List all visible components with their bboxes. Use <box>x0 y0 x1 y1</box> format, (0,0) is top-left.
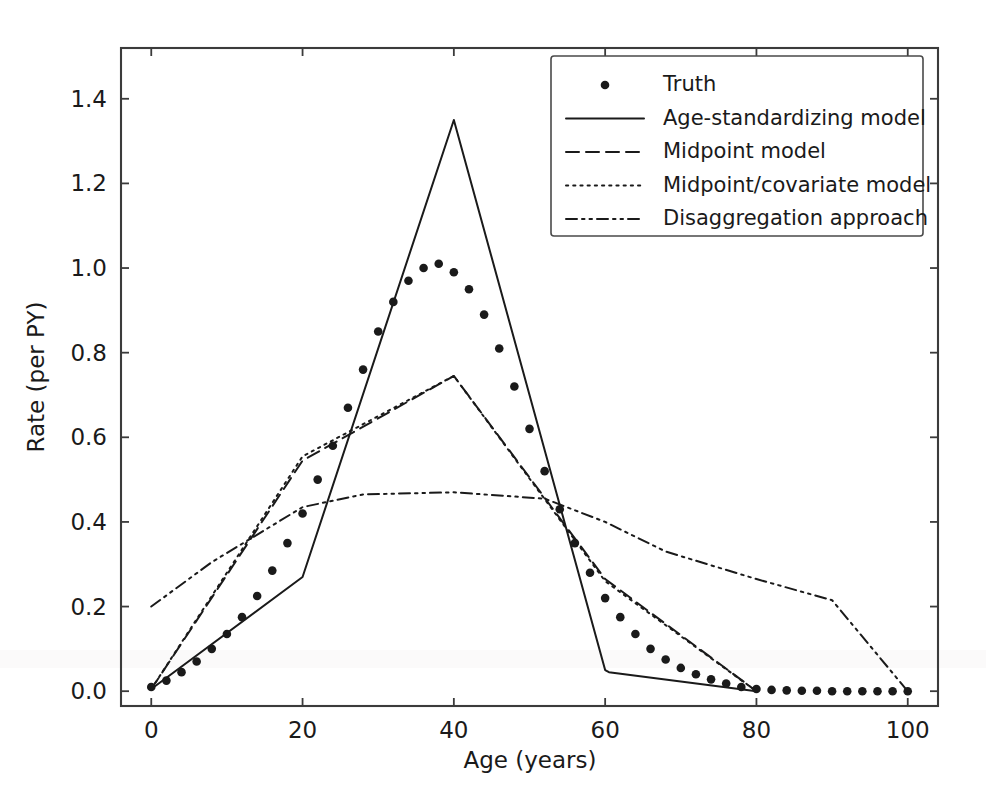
data-point <box>601 594 610 603</box>
data-point <box>676 664 685 673</box>
data-point <box>495 344 504 353</box>
chart-figure: 0.00.20.40.60.81.01.21.4 020406080100 Ag… <box>0 0 986 804</box>
data-point <box>510 382 519 391</box>
data-point <box>283 539 292 548</box>
data-point <box>359 365 368 374</box>
data-point <box>646 645 655 654</box>
data-point <box>661 655 670 664</box>
data-point <box>631 630 640 639</box>
data-point <box>540 467 549 476</box>
x-tick-label: 40 <box>439 717 468 743</box>
data-point <box>419 264 428 273</box>
y-tick-label: 1.2 <box>70 170 107 196</box>
y-tick-label: 0.8 <box>70 340 107 366</box>
data-point <box>298 509 307 518</box>
data-point <box>313 475 322 484</box>
data-point <box>767 686 776 695</box>
legend-marker-truth <box>601 81 610 90</box>
x-tick-label: 0 <box>144 717 159 743</box>
data-point <box>480 310 489 319</box>
legend-label: Age-standardizing model <box>663 106 926 130</box>
data-point <box>873 687 882 696</box>
chart-canvas: 0.00.20.40.60.81.01.21.4 020406080100 Ag… <box>0 0 986 804</box>
legend-label: Midpoint/covariate model <box>663 173 931 197</box>
x-tick-label: 20 <box>288 717 317 743</box>
data-point <box>888 687 897 696</box>
x-tick-label: 60 <box>591 717 620 743</box>
scan-artifact-band <box>0 650 986 668</box>
y-tick-label: 0.6 <box>70 424 107 450</box>
data-point <box>450 268 459 277</box>
y-tick-label: 0.2 <box>70 594 107 620</box>
data-point <box>707 675 716 684</box>
data-point <box>253 592 262 601</box>
data-point <box>616 613 625 622</box>
x-axis-label: Age (years) <box>463 747 596 773</box>
data-point <box>434 260 443 269</box>
y-tick-label: 0.0 <box>70 678 107 704</box>
y-tick-label: 1.4 <box>70 86 107 112</box>
data-point <box>858 687 867 696</box>
data-point <box>782 686 791 695</box>
x-tick-label: 100 <box>886 717 930 743</box>
y-axis-label: Rate (per PY) <box>23 302 49 453</box>
legend-label: Midpoint model <box>663 139 826 163</box>
x-tick-label: 80 <box>742 717 771 743</box>
data-point <box>798 686 807 695</box>
data-point <box>843 687 852 696</box>
y-tick-label: 1.0 <box>70 255 107 281</box>
chart-legend[interactable]: TruthAge-standardizing modelMidpoint mod… <box>551 56 931 236</box>
y-tick-label: 0.4 <box>70 509 107 535</box>
data-point <box>828 687 837 696</box>
data-point <box>404 276 413 285</box>
data-point <box>586 568 595 577</box>
data-point <box>465 285 474 294</box>
legend-label: Disaggregation approach <box>663 206 928 230</box>
legend-label: Truth <box>662 72 716 96</box>
data-point <box>525 425 534 434</box>
data-point <box>344 403 353 412</box>
data-point <box>374 327 383 336</box>
data-point <box>692 670 701 679</box>
data-point <box>813 686 822 695</box>
data-point <box>268 566 277 575</box>
